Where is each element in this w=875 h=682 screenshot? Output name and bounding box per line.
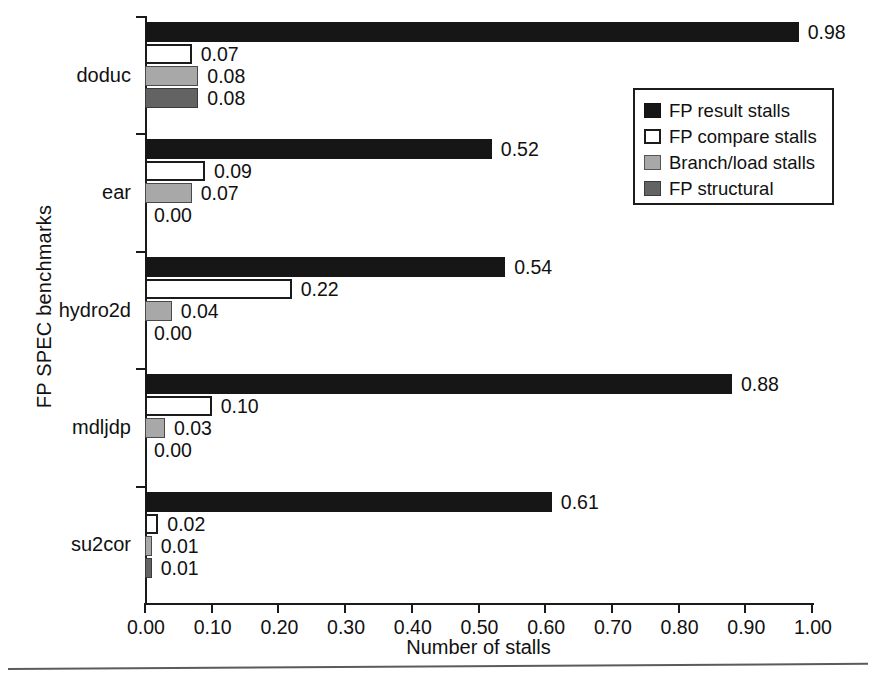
- y-axis-group-tick: [136, 133, 145, 135]
- chart-legend: FP result stallsFP compare stallsBranch/…: [633, 88, 834, 205]
- bar: [145, 161, 205, 181]
- legend-item: FP structural: [644, 176, 832, 201]
- bar: [145, 558, 152, 578]
- bar-value-label: 0.01: [161, 556, 199, 579]
- bar-value-label: 0.10: [221, 395, 259, 418]
- bar: [145, 22, 799, 42]
- x-axis-tick: [344, 603, 346, 613]
- y-axis-category-label: doduc: [77, 63, 132, 86]
- bar: [145, 418, 165, 438]
- bar-value-label: 0.00: [154, 439, 192, 462]
- x-axis-tick: [678, 603, 680, 613]
- bar: [145, 536, 152, 556]
- x-axis-tick: [411, 603, 413, 613]
- y-axis-group-tick: [136, 251, 145, 253]
- y-axis-category-label: mdljdp: [72, 415, 131, 438]
- x-axis-tick: [277, 603, 279, 613]
- legend-item: Branch/load stalls: [644, 150, 832, 175]
- bar-value-label: 0.07: [201, 43, 239, 66]
- x-axis-tick: [211, 603, 213, 613]
- legend-swatch-icon: [644, 181, 661, 196]
- bar: [145, 44, 192, 64]
- bar: [145, 139, 492, 159]
- legend-item-label: FP result stalls: [669, 100, 790, 122]
- legend-item: FP result stalls: [644, 98, 832, 123]
- legend-item-label: FP compare stalls: [669, 126, 817, 148]
- x-axis-tick: [744, 603, 746, 613]
- bar: [145, 279, 292, 299]
- legend-swatch-icon: [644, 103, 661, 118]
- legend-swatch-icon: [644, 129, 661, 144]
- bar-value-label: 0.61: [561, 490, 599, 513]
- x-axis-tick: [544, 603, 546, 613]
- bar: [145, 66, 198, 86]
- x-axis-line: [145, 603, 814, 605]
- bar: [145, 88, 198, 108]
- legend-item-label: Branch/load stalls: [669, 152, 815, 174]
- bar: [145, 374, 732, 394]
- bar-value-label: 0.09: [214, 160, 252, 183]
- y-axis-category-label: ear: [102, 181, 131, 204]
- x-axis-tick: [811, 603, 813, 613]
- legend-item: FP compare stalls: [644, 124, 832, 149]
- x-axis-title: Number of stalls: [145, 636, 812, 659]
- page-bottom-rule: [8, 663, 868, 670]
- bar: [145, 301, 172, 321]
- bar-value-label: 0.01: [161, 534, 199, 557]
- x-axis-tick: [144, 603, 146, 613]
- y-axis-category-label: su2cor: [71, 533, 131, 556]
- y-axis-group-tick: [136, 16, 145, 18]
- bar-value-label: 0.52: [501, 138, 539, 161]
- y-axis-group-tick: [136, 368, 145, 370]
- y-axis-title: FP SPEC benchmarks: [33, 177, 56, 437]
- bar-value-label: 0.02: [167, 512, 205, 535]
- bar-value-label: 0.08: [207, 65, 245, 88]
- y-axis-group-tick: [136, 486, 145, 488]
- bar-value-label: 0.08: [207, 87, 245, 110]
- bar-value-label: 0.22: [301, 277, 339, 300]
- bar: [145, 183, 192, 203]
- bar: [145, 514, 158, 534]
- bar: [145, 257, 505, 277]
- chart-figure: FP SPEC benchmarks 0.000.100.200.300.400…: [0, 0, 875, 682]
- bar-value-label: 0.54: [514, 255, 552, 278]
- legend-item-label: FP structural: [669, 178, 774, 200]
- x-axis-tick: [478, 603, 480, 613]
- bar-value-label: 0.07: [201, 182, 239, 205]
- bar-value-label: 0.03: [174, 417, 212, 440]
- x-axis-tick: [611, 603, 613, 613]
- legend-swatch-icon: [644, 155, 661, 170]
- bar-value-label: 0.98: [808, 21, 846, 44]
- bar-value-label: 0.00: [154, 204, 192, 227]
- bar: [145, 396, 212, 416]
- y-axis-category-label: hydro2d: [59, 298, 131, 321]
- bar-value-label: 0.04: [181, 299, 219, 322]
- bar-value-label: 0.00: [154, 321, 192, 344]
- bar-value-label: 0.88: [741, 373, 779, 396]
- bar: [145, 492, 552, 512]
